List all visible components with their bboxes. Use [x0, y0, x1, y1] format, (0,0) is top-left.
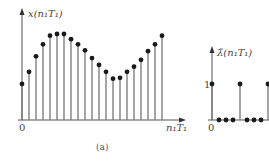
stem-marker [83, 48, 88, 53]
figure: x(n₁T₁) 0 n₁T₁ (a) λ̃(n₁T₁) 1 0 [0, 0, 269, 167]
stem-marker [20, 81, 25, 86]
stem-marker [238, 82, 243, 87]
stem-marker [48, 33, 53, 38]
stem-marker [231, 118, 236, 123]
right-origin-label: 0 [208, 122, 214, 133]
stem-marker [69, 37, 74, 42]
right-y-axis-arrow-icon [210, 46, 215, 53]
right-ytick-one: 1 [204, 79, 210, 90]
stem-marker [160, 33, 165, 38]
stem-marker [111, 76, 116, 81]
left-origin-label: 0 [19, 122, 25, 133]
stem-marker [139, 57, 144, 62]
stem-marker [132, 64, 137, 69]
right-y-label: λ̃(n₁T₁) [216, 47, 252, 58]
stem-marker [27, 69, 32, 74]
stem-marker [55, 32, 60, 37]
stem-marker [62, 32, 67, 37]
left-y-axis-arrow-icon [20, 8, 25, 15]
stem-marker [217, 118, 222, 123]
stem-marker [104, 69, 109, 74]
left-y-label: x(n₁T₁) [28, 8, 63, 19]
stem-marker [245, 118, 250, 123]
left-x-label: n₁T₁ [166, 122, 187, 133]
stem-marker [146, 49, 151, 54]
stem-marker [34, 54, 39, 59]
left-stem-plot: x(n₁T₁) 0 n₁T₁ (a) [18, 8, 187, 152]
stem-marker [252, 118, 257, 123]
stem-marker [41, 42, 46, 47]
stem-marker [224, 118, 229, 123]
stem-marker [97, 63, 102, 68]
caption: (a) [96, 142, 108, 152]
stem-marker [259, 118, 264, 123]
stem-marker [118, 75, 123, 80]
right-stem-plot: λ̃(n₁T₁) 1 0 [204, 46, 269, 133]
stem-marker [266, 82, 269, 87]
stem-marker [76, 42, 81, 47]
stem-marker [125, 69, 130, 74]
stem-marker [90, 56, 95, 61]
right-stems [210, 82, 269, 123]
stem-marker [153, 42, 158, 47]
left-stems [20, 32, 165, 120]
